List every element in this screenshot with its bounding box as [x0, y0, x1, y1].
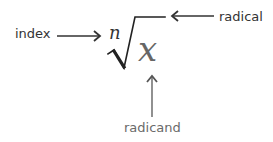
radical-arrow-icon [172, 11, 214, 21]
radical-sign [108, 17, 165, 68]
radicand-arrow-icon [147, 76, 157, 117]
index-arrow-icon [57, 31, 100, 41]
diagram-graphics [0, 0, 273, 142]
